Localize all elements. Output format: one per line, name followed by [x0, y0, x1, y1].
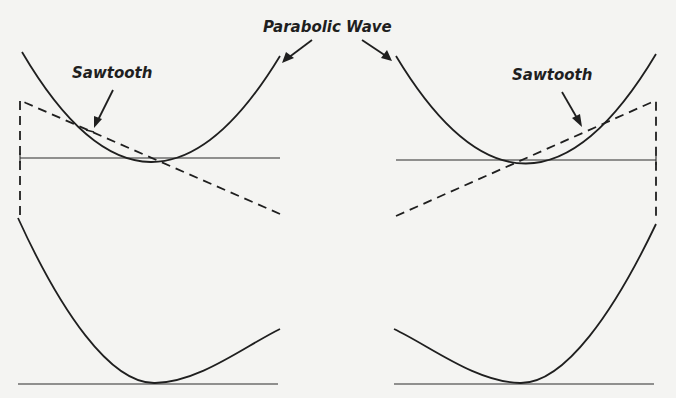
- right-lower-parabola: [394, 224, 656, 383]
- sawtooth-right-label: Sawtooth: [512, 66, 592, 84]
- sawtooth-left-arrow: [86, 90, 113, 132]
- diagram: Parabolic Wave Sawtooth Sawtooth: [0, 0, 676, 398]
- parabolic-wave-label: Parabolic Wave: [263, 18, 392, 36]
- right-lower-panel: [394, 224, 656, 384]
- left-lower-panel: [18, 218, 280, 384]
- sawtooth-left-label: Sawtooth: [72, 64, 152, 82]
- right-upper-panel: Sawtooth: [396, 54, 656, 218]
- diagram-canvas: Parabolic Wave Sawtooth Sawtooth: [0, 0, 676, 398]
- parabolic-wave-arrow-left: [282, 40, 312, 63]
- parabolic-wave-arrow-right: [362, 40, 392, 61]
- left-lower-parabola: [18, 218, 280, 383]
- left-upper-panel: Sawtooth: [20, 52, 280, 215]
- sawtooth-right-arrow: [562, 92, 582, 127]
